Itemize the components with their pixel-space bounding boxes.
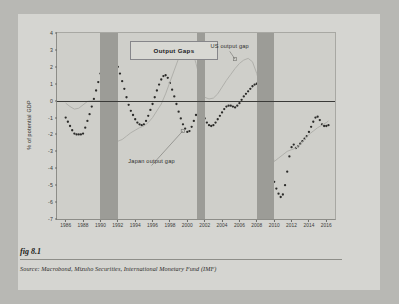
figure-source: Source: Macrobond, Mizuho Securities, In… xyxy=(20,265,217,272)
plot-area: 43210-1-2-3-4-5-6-7198619881990199219941… xyxy=(56,32,336,220)
x-axis-tick: 1986 xyxy=(60,223,71,228)
x-axis-tick: 2000 xyxy=(182,223,193,228)
figure-page: % of potential GDP 43210-1-2-3-4-5-6-719… xyxy=(0,0,399,304)
x-axis-tick: 1992 xyxy=(112,223,123,228)
zero-reference-line xyxy=(57,101,335,102)
x-axis-tick: 2016 xyxy=(321,223,332,228)
x-axis-tick: 2014 xyxy=(303,223,314,228)
annotation-us-output-gap: US output gap xyxy=(211,43,249,49)
y-axis-tick: 4 xyxy=(50,30,57,36)
x-axis-tick: 1998 xyxy=(164,223,175,228)
x-axis-tick: 1988 xyxy=(78,223,89,228)
x-axis-tick: 2006 xyxy=(234,223,245,228)
x-axis-tick: 2002 xyxy=(199,223,210,228)
x-axis-tick: 2004 xyxy=(217,223,228,228)
figure-number: fig 8.1 xyxy=(20,247,41,256)
annotation-japan-output-gap: Japan output gap xyxy=(128,158,174,164)
chart-title-box: Output Gaps xyxy=(130,41,218,60)
recession-band xyxy=(100,33,117,219)
y-axis-tick: -6 xyxy=(48,199,57,205)
chart-title: Output Gaps xyxy=(154,47,195,54)
x-axis-tick: 1994 xyxy=(130,223,141,228)
x-axis-tick: 2010 xyxy=(269,223,280,228)
y-axis-tick: 1 xyxy=(50,81,57,87)
y-axis-tick: -2 xyxy=(48,131,57,137)
y-axis-tick: -3 xyxy=(48,148,57,154)
y-axis-tick: 2 xyxy=(50,64,57,70)
y-axis-tick: -5 xyxy=(48,182,57,188)
x-axis-tick: 1990 xyxy=(95,223,106,228)
x-axis-tick: 2008 xyxy=(251,223,262,228)
recession-band xyxy=(257,33,274,219)
x-axis-tick: 2012 xyxy=(286,223,297,228)
y-axis-tick: -1 xyxy=(48,115,57,121)
recession-band xyxy=(197,33,205,219)
y-axis-tick: 3 xyxy=(50,47,57,53)
x-axis-tick: 1996 xyxy=(147,223,158,228)
y-axis-tick: -7 xyxy=(48,216,57,222)
caption-rule xyxy=(20,259,342,260)
y-axis-tick: 0 xyxy=(50,98,57,104)
y-axis-label: % of potential GDP xyxy=(26,100,32,149)
chart-figure: % of potential GDP 43210-1-2-3-4-5-6-719… xyxy=(20,12,342,240)
y-axis-tick: -4 xyxy=(48,165,57,171)
